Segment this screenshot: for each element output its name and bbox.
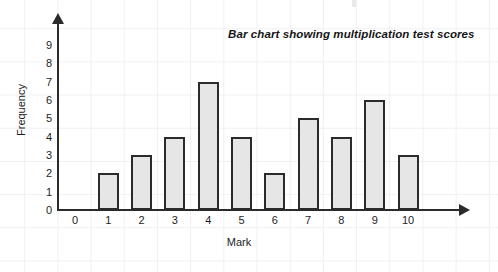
y-axis-title: Frequency xyxy=(15,80,27,140)
chart-plot-area: 0123456789 012345678910 Frequency Mark B… xyxy=(0,0,498,272)
bar-6 xyxy=(264,173,285,210)
bars-layer xyxy=(0,0,498,272)
bar-1 xyxy=(98,173,119,210)
x-axis-title: Mark xyxy=(199,236,279,248)
bar-4 xyxy=(198,82,219,210)
bar-7 xyxy=(298,118,319,210)
bar-10 xyxy=(398,155,419,210)
chart-title: Bar chart showing multiplication test sc… xyxy=(228,28,475,40)
bar-chart-screenshot: 0123456789 012345678910 Frequency Mark B… xyxy=(0,0,498,272)
bar-3 xyxy=(164,137,185,210)
bar-2 xyxy=(131,155,152,210)
bar-5 xyxy=(231,137,252,210)
bar-9 xyxy=(364,100,385,210)
bar-8 xyxy=(331,137,352,210)
